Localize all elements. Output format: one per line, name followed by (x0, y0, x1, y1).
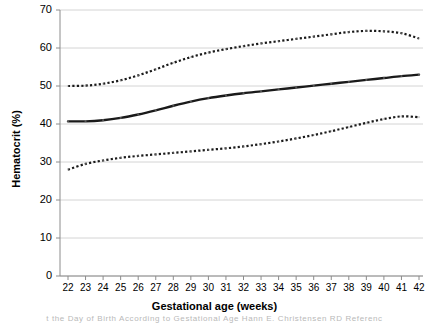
data-point (120, 117, 122, 119)
data-point (383, 118, 385, 120)
data-point (242, 45, 244, 47)
data-point (242, 92, 244, 94)
series-line-0 (68, 31, 419, 86)
data-point (155, 109, 157, 111)
data-point (260, 90, 262, 92)
data-point (313, 36, 315, 38)
data-point (348, 31, 350, 33)
x-tick-label: 42 (409, 283, 429, 293)
y-tick-label: 20 (24, 194, 52, 205)
data-point (67, 120, 69, 122)
data-point (400, 75, 402, 77)
hematocrit-line-chart (0, 0, 429, 323)
y-axis-title: Hematocrit (%) (10, 89, 22, 209)
data-point (418, 74, 420, 76)
data-point (365, 30, 367, 32)
data-point (383, 77, 385, 79)
data-point (84, 163, 86, 165)
data-point (67, 85, 69, 87)
data-point (172, 62, 174, 64)
data-point (295, 38, 297, 40)
data-point (295, 137, 297, 139)
data-point (260, 42, 262, 44)
data-point (400, 115, 402, 117)
data-point (242, 145, 244, 147)
y-tick-label: 60 (24, 42, 52, 53)
data-point (137, 74, 139, 76)
data-point (400, 32, 402, 34)
data-point (278, 140, 280, 142)
figure-caption: t the Day of Birth According to Gestatio… (0, 314, 429, 323)
data-point (330, 33, 332, 35)
data-point (383, 30, 385, 32)
data-point (102, 159, 104, 161)
y-tick-label: 40 (24, 118, 52, 129)
data-point (418, 37, 420, 39)
data-point (260, 143, 262, 145)
data-point (278, 88, 280, 90)
data-point (120, 79, 122, 81)
data-point (313, 134, 315, 136)
data-point (84, 120, 86, 122)
data-point (172, 152, 174, 154)
chart-figure: Hematocrit (%) Gestational age (weeks) 0… (0, 0, 429, 323)
data-point (67, 169, 69, 171)
data-point (84, 85, 86, 87)
data-point (330, 83, 332, 85)
data-point (207, 51, 209, 53)
y-tick-label: 0 (24, 270, 52, 281)
data-point (365, 122, 367, 124)
data-point (207, 149, 209, 151)
data-point (137, 113, 139, 115)
data-point (295, 86, 297, 88)
data-point (207, 97, 209, 99)
data-point (348, 126, 350, 128)
data-point (172, 105, 174, 107)
data-point (120, 157, 122, 159)
x-axis-title: Gestational age (weeks) (0, 300, 429, 312)
y-tick-label: 10 (24, 232, 52, 243)
data-point (330, 130, 332, 132)
data-point (190, 150, 192, 152)
y-tick-label: 30 (24, 156, 52, 167)
data-point (225, 48, 227, 50)
data-point (137, 155, 139, 157)
data-point (102, 83, 104, 85)
data-point (313, 85, 315, 87)
data-point (190, 100, 192, 102)
data-point (225, 94, 227, 96)
data-point (190, 56, 192, 58)
data-point (365, 79, 367, 81)
data-point (102, 119, 104, 121)
data-point (418, 116, 420, 118)
data-point (225, 147, 227, 149)
y-tick-label: 70 (24, 4, 52, 15)
data-point (348, 81, 350, 83)
data-point (155, 153, 157, 155)
y-tick-label: 50 (24, 80, 52, 91)
data-point (155, 68, 157, 70)
data-point (278, 40, 280, 42)
series-line-1 (68, 75, 419, 122)
